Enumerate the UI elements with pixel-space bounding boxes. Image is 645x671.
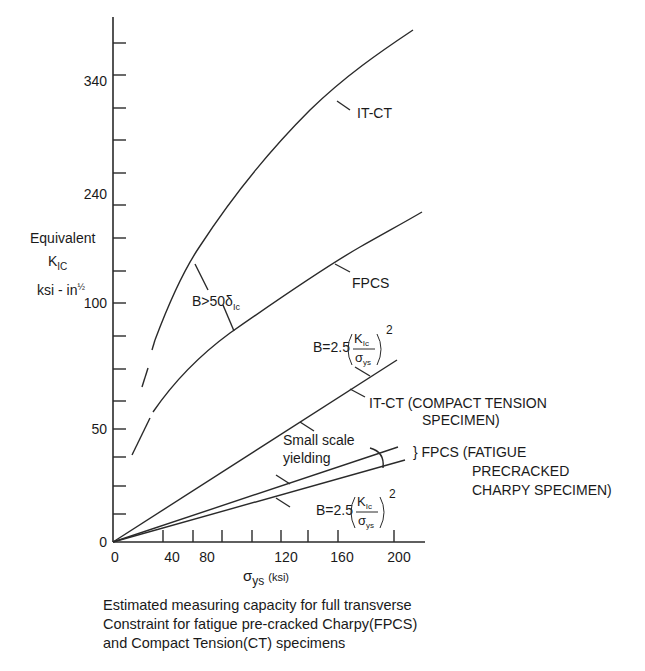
fpcs-bracket-arc [370,448,383,468]
x-label-200: 200 [387,549,411,565]
svg-text:KIc: KIc [354,331,369,348]
label-fpcs-charpy-3: CHARPY SPECIMEN) [472,482,612,498]
y-ticks [113,43,126,514]
y-label-240: 240 [84,186,108,202]
leader-fpcs [335,264,350,272]
caption-line-1: Estimated measuring capacity for full tr… [103,596,523,615]
leader-ssy-low1 [276,475,290,484]
itct-curve-dash1 [142,368,148,387]
svg-text:2: 2 [389,487,396,501]
svg-text:B=2.5: B=2.5 [316,502,353,518]
svg-text:B=2.5: B=2.5 [313,339,350,355]
chart: 340 240 100 50 0 0 40 80 120 160 200 Equ… [0,0,645,671]
fpcs-curve-dash [132,418,150,455]
y-label-340: 340 [84,73,108,89]
svg-text:KIC: KIC [48,253,67,272]
x-label-80: 80 [199,549,215,565]
leader-itct-line [350,389,365,397]
x-label-0: 0 [111,549,119,565]
svg-text:Equivalent: Equivalent [30,230,95,246]
svg-text:KIc: KIc [357,494,372,511]
svg-text:2: 2 [386,323,393,337]
y-label-0: 0 [99,534,107,550]
label-itct-compact-2: SPECIMEN) [422,412,500,428]
x-axis-title: σys(ksi) [243,567,289,588]
y-label-50: 50 [91,421,107,437]
caption-line-3: and Compact Tension(CT) specimens [103,634,523,653]
leader-formula-top [355,367,370,376]
itct-curve-dash2 [152,340,155,350]
label-fpcs-charpy: } FPCS (FATIGUE [413,444,526,460]
svg-text:σys: σys [358,513,374,530]
x-label-40: 40 [164,549,180,565]
y-tick-labels: 340 240 100 50 0 [84,73,108,550]
chart-annotations: IT-CT FPCS B>50δIc B=2.5 KIc σys 2 IT-CT… [192,105,612,530]
fpcs-curve [153,212,422,412]
label-ssy-2: yielding [283,450,330,466]
y-label-100: 100 [84,295,108,311]
x-label-160: 160 [330,549,354,565]
formula-lower: B=2.5 KIc σys 2 [316,487,396,530]
y-axis-title: Equivalent KIC ksi - in½ [30,230,95,298]
label-ssy-1: Small scale [283,432,355,448]
itct-ssy-line [113,360,397,542]
label-itct: IT-CT [357,105,392,121]
label-b50: B>50δIc [192,293,240,312]
leader-ssy-low2 [276,498,290,507]
x-ticks [163,530,394,542]
x-label-120: 120 [274,549,298,565]
svg-text:ksi - in½: ksi - in½ [37,282,85,298]
x-tick-labels: 0 40 80 120 160 200 [111,549,411,565]
leader-itct [337,101,350,110]
label-fpcs: FPCS [352,275,389,291]
leader-ssy [300,422,314,431]
label-fpcs-charpy-2: PRECRACKED [472,463,569,479]
label-itct-compact: IT-CT (COMPACT TENSION [369,395,547,411]
leader-b50-upper [195,264,208,290]
caption-line-2: Constraint for fatigue pre-cracked Charp… [103,615,523,634]
svg-text:σys: σys [355,350,371,367]
figure-caption: Estimated measuring capacity for full tr… [103,596,523,653]
formula-upper: B=2.5 KIc σys 2 [313,323,393,367]
